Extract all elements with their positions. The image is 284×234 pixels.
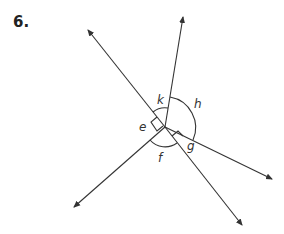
ray-top — [165, 17, 183, 127]
label-f: f — [158, 151, 164, 165]
label-h: h — [194, 97, 202, 111]
angle-arc-k — [153, 108, 168, 112]
label-k: k — [157, 93, 165, 107]
right-angle-mark-e — [151, 117, 163, 131]
label-g: g — [187, 139, 195, 153]
ray-lower-right — [165, 127, 242, 225]
angle-arc-f — [150, 140, 177, 147]
ray-lower-left — [74, 127, 165, 207]
ray-upper-left — [88, 30, 165, 127]
angle-arc-h — [170, 97, 196, 140]
angle-diagram: k h e f g — [0, 0, 284, 234]
label-e: e — [139, 120, 146, 134]
